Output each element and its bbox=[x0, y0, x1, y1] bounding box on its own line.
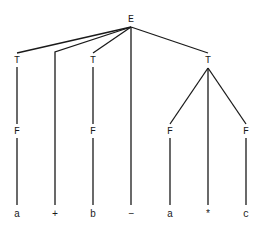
leaf-minus: − bbox=[128, 209, 134, 220]
leaf-b: b bbox=[90, 209, 96, 220]
edge-T3-F3 bbox=[170, 68, 208, 124]
parse-tree-diagram: E T T T F F F F a + b − a * c bbox=[0, 0, 263, 231]
node-T-middle: T bbox=[90, 55, 96, 66]
node-E: E bbox=[128, 14, 134, 25]
edge-T3-F4 bbox=[208, 68, 246, 124]
leaf-a-1: a bbox=[14, 209, 20, 220]
node-F-3: F bbox=[167, 126, 173, 137]
node-F-1: F bbox=[14, 126, 20, 137]
node-F-4: F bbox=[243, 126, 249, 137]
edge-E-T1 bbox=[17, 27, 131, 53]
tree-edges bbox=[17, 27, 246, 205]
node-T-left: T bbox=[14, 55, 20, 66]
edge-E-T3 bbox=[131, 27, 208, 53]
leaf-c: c bbox=[243, 209, 249, 220]
leaf-plus: + bbox=[52, 209, 58, 220]
leaf-a-2: a bbox=[167, 209, 173, 220]
node-F-2: F bbox=[90, 126, 96, 137]
leaf-star: * bbox=[205, 209, 211, 220]
node-T-right: T bbox=[205, 55, 211, 66]
